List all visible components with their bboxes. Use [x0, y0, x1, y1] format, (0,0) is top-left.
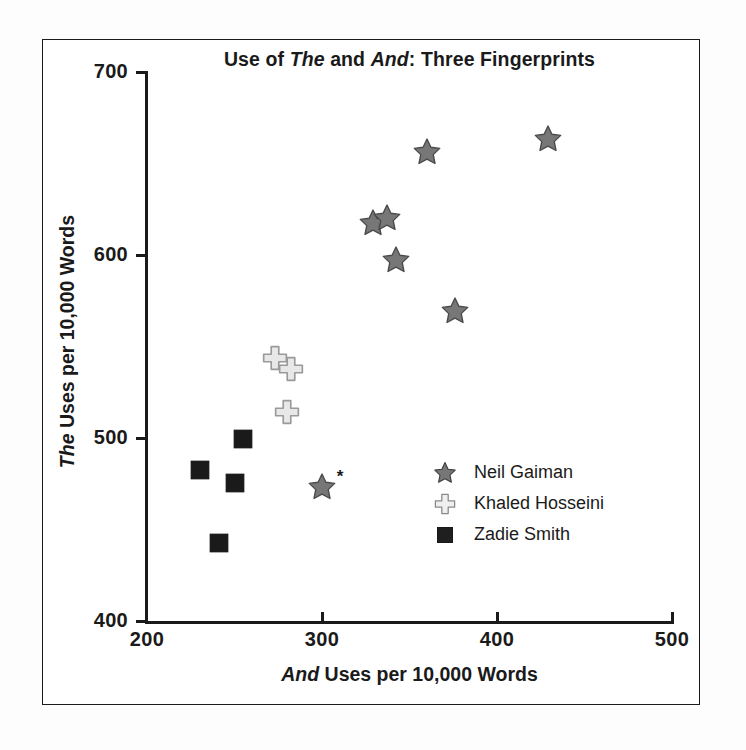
ylabel-the: The	[56, 433, 78, 468]
title-part-and-word: and	[325, 48, 371, 70]
chart-legend: Neil Gaiman Khaled Hosseini Zadie Smith	[430, 457, 604, 550]
square-marker-icon	[430, 525, 460, 545]
legend-label-khaled-hosseini: Khaled Hosseini	[474, 493, 604, 514]
data-point-star	[412, 137, 442, 167]
x-ticklabel-200: 200	[112, 628, 182, 651]
x-ticklabel-500: 500	[637, 628, 707, 651]
plot-area: Use of The and And: Three Fingerprints 7…	[0, 0, 746, 750]
chart-title: Use of The and And: Three Fingerprints	[147, 48, 672, 71]
legend-item-neil-gaiman[interactable]: Neil Gaiman	[430, 457, 604, 488]
data-point-square	[208, 532, 230, 554]
data-point-cross	[278, 356, 304, 382]
y-axis-line	[145, 71, 148, 624]
y-tick-500	[136, 437, 147, 440]
data-point-square	[224, 472, 246, 494]
legend-label-neil-gaiman: Neil Gaiman	[474, 462, 573, 483]
x-ticklabel-300: 300	[287, 628, 357, 651]
ylabel-rest: Uses per 10,000 Words	[56, 215, 78, 434]
legend-item-khaled-hosseini[interactable]: Khaled Hosseini	[430, 488, 604, 519]
data-point-star	[440, 296, 470, 326]
data-point-square	[232, 428, 254, 450]
x-tick-500	[671, 612, 674, 623]
y-tick-600	[136, 254, 147, 257]
y-ticklabel-700: 700	[68, 60, 128, 83]
x-tick-400	[496, 612, 499, 623]
data-point-cross	[274, 399, 300, 425]
figure-canvas: Use of The and And: Three Fingerprints 7…	[0, 0, 746, 750]
data-point-star	[307, 472, 337, 502]
legend-label-zadie-smith: Zadie Smith	[474, 524, 570, 545]
title-part-use-of: Use of	[224, 48, 290, 70]
data-point-star	[381, 245, 411, 275]
cross-marker-icon	[430, 493, 460, 515]
title-part-suffix: : Three Fingerprints	[409, 48, 595, 70]
asterisk-annotation: *	[337, 467, 344, 487]
title-part-and: And	[371, 48, 409, 70]
x-axis-line	[145, 621, 674, 624]
y-axis-label: The Uses per 10,000 Words	[56, 182, 79, 502]
data-point-star	[372, 203, 402, 233]
x-tick-200	[145, 612, 148, 623]
x-ticklabel-400: 400	[462, 628, 532, 651]
star-marker-icon	[430, 461, 460, 485]
legend-item-zadie-smith[interactable]: Zadie Smith	[430, 519, 604, 550]
x-axis-label: And Uses per 10,000 Words	[147, 663, 672, 686]
xlabel-and: And	[281, 663, 319, 685]
xlabel-rest: Uses per 10,000 Words	[319, 663, 538, 685]
y-tick-700	[136, 71, 147, 74]
data-point-square	[189, 459, 211, 481]
data-point-star	[533, 124, 563, 154]
x-tick-300	[321, 612, 324, 623]
title-part-the: The	[290, 48, 325, 70]
